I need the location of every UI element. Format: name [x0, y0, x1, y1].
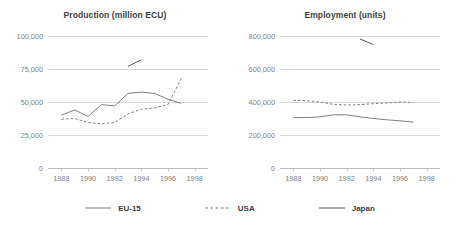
x-axis-tick-label: 1994	[365, 174, 381, 183]
x-axis-tick	[347, 168, 348, 171]
series-line-usa	[293, 100, 413, 105]
x-axis-tick	[195, 168, 196, 171]
legend-item-eu15[interactable]: EU-15	[85, 204, 141, 213]
chart-panel-employment: Employment (units) 0200,000400,000600,00…	[230, 0, 460, 190]
legend-line-solid-japan-icon	[319, 204, 345, 212]
x-axis-tick-label: 1996	[392, 174, 408, 183]
x-axis-tick	[88, 168, 89, 171]
y-axis-tick-label: 0	[39, 164, 43, 173]
x-axis-tick	[141, 168, 142, 171]
legend-line-dashed-icon	[205, 204, 231, 212]
chart-panel-production: Production (million ECU) 025,00050,00075…	[0, 0, 230, 190]
x-axis-tick-label: 1990	[312, 174, 328, 183]
gridline-y	[48, 168, 208, 169]
x-axis-tick-label: 1990	[80, 174, 96, 183]
chart-legend: EU-15 USA Japan	[0, 196, 460, 220]
y-axis-tick-label: 800,000	[249, 32, 275, 41]
x-axis-tick-label: 1988	[53, 174, 69, 183]
legend-line-solid-icon	[85, 204, 111, 212]
x-axis-tick	[400, 168, 401, 171]
x-axis-tick	[320, 168, 321, 171]
chart-title-employment: Employment (units)	[230, 10, 460, 20]
x-axis-tick-label: 1996	[160, 174, 176, 183]
y-axis-tick-label: 100,000	[17, 32, 43, 41]
legend-label-usa: USA	[238, 204, 255, 213]
legend-label-japan: Japan	[352, 204, 375, 213]
series-layer	[280, 36, 440, 168]
chart-figure: Production (million ECU) 025,00050,00075…	[0, 0, 460, 225]
chart-title-production: Production (million ECU)	[0, 10, 230, 20]
x-axis-tick-label: 1988	[285, 174, 301, 183]
y-axis-tick-label: 0	[271, 164, 275, 173]
legend-item-usa[interactable]: USA	[205, 204, 255, 213]
x-axis-tick	[115, 168, 116, 171]
y-axis-tick-label: 400,000	[249, 98, 275, 107]
plot-area-employment: 0200,000400,000600,000800,00019881990199…	[280, 36, 440, 168]
x-axis-tick-label: 1994	[133, 174, 149, 183]
series-line-eu-15	[61, 92, 181, 116]
gridline-y	[280, 168, 440, 169]
x-axis-tick-label: 1992	[107, 174, 123, 183]
series-line-japan	[128, 60, 141, 67]
x-axis-tick	[61, 168, 62, 171]
legend-item-japan[interactable]: Japan	[319, 204, 375, 213]
y-axis-tick-label: 75,000	[21, 65, 43, 74]
y-axis-tick-label: 25,000	[21, 131, 43, 140]
series-line-usa	[61, 78, 181, 124]
series-line-japan	[360, 39, 373, 45]
plot-area-production: 025,00050,00075,000100,00019881990199219…	[48, 36, 208, 168]
series-layer	[48, 36, 208, 168]
legend-label-eu15: EU-15	[118, 204, 141, 213]
x-axis-tick	[293, 168, 294, 171]
x-axis-tick	[427, 168, 428, 171]
x-axis-tick-label: 1998	[187, 174, 203, 183]
y-axis-tick-label: 600,000	[249, 65, 275, 74]
x-axis-tick-label: 1998	[419, 174, 435, 183]
y-axis-tick-label: 200,000	[249, 131, 275, 140]
series-line-eu-15	[293, 115, 413, 122]
x-axis-tick	[168, 168, 169, 171]
y-axis-tick-label: 50,000	[21, 98, 43, 107]
x-axis-tick	[373, 168, 374, 171]
x-axis-tick-label: 1992	[339, 174, 355, 183]
